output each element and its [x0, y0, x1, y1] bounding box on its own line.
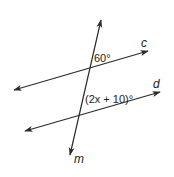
angle-label-2x-plus-10: (2x + 10)°: [85, 93, 133, 105]
line-label-m: m: [74, 152, 84, 166]
line-label-c: c: [141, 36, 147, 50]
line-label-d: d: [153, 77, 160, 91]
angle-label-60: 60°: [94, 52, 111, 64]
line-m-transversal: [70, 20, 101, 155]
line-c: [14, 51, 148, 90]
parallel-lines-transversal-diagram: 60° (2x + 10)° c d m: [0, 0, 174, 177]
